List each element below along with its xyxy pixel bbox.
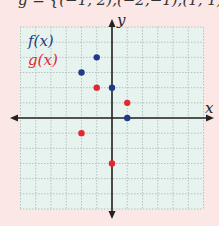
data-point xyxy=(109,160,115,166)
data-point xyxy=(94,54,100,60)
y-axis-arrow-down-icon xyxy=(109,211,116,219)
y-axis-label: y xyxy=(117,13,125,28)
data-point xyxy=(124,115,130,121)
y-axis-arrow-up-icon xyxy=(109,19,116,27)
legend-g-label: g(x) xyxy=(28,53,58,68)
data-point xyxy=(94,84,100,90)
legend-f-label: f(x) xyxy=(28,34,54,49)
data-point xyxy=(109,84,115,90)
data-point xyxy=(124,100,130,106)
x-axis-arrow-left-icon xyxy=(10,115,18,122)
data-point xyxy=(78,130,84,136)
data-point xyxy=(78,69,84,75)
x-axis-label: x xyxy=(205,101,213,116)
